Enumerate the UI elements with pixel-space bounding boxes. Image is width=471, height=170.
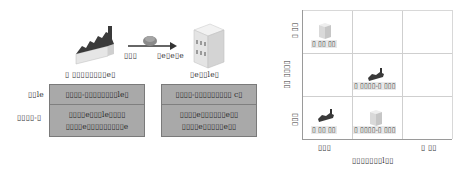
target-box-line-2: ▯▯▯▯e▯▯▯▯▯e▯▯ <box>182 122 236 131</box>
x-axis-title: ▯▯▯▯▯▯▯l▯▯ <box>352 156 394 165</box>
office-building-icon <box>318 22 332 40</box>
matrix-cell-label: ▯ ▯▯ ▯▯ <box>311 40 337 48</box>
grid-line <box>303 53 452 54</box>
matrix-cell-label: ▯ ▯▯ ▯▯ <box>311 126 337 134</box>
x-axis-low-label: ▯▯▯ <box>318 143 331 152</box>
y-axis-low-label: ▯▯▯ <box>290 108 299 132</box>
transfer-arrow-icon <box>126 32 178 52</box>
source-box-line-2: ▯▯▯▯e▯▯▯▯▯▯▯▯▯e <box>66 122 129 131</box>
target-info-box: ▯▯▯▯-▯▯▯▯▯▯▯▯▯ c▯ ▯▯▯▯e▯▯▯▯▯▯e▯▯ ▯▯▯▯e▯▯… <box>161 84 257 137</box>
target-box-body: ▯▯▯▯e▯▯▯▯▯▯e▯▯ ▯▯▯▯e▯▯▯▯▯e▯▯ <box>162 104 256 136</box>
source-info-box: ▯▯▯▯-▯▯▯▯▯▯▯▯le▯ ▯▯▯▯e▯▯▯le▯▯▯▯ ▯▯▯▯e▯▯▯… <box>49 84 145 137</box>
source-box-line-1: ▯▯▯▯e▯▯▯le▯▯▯▯ <box>69 110 126 119</box>
matrix-cell-label: ▯ ▯▯▯▯-▯ ▯▯▯ <box>353 82 396 90</box>
row-label-2: ▯▯▯▯-▯ <box>17 113 41 122</box>
office-building-icon <box>369 109 383 127</box>
office-building-icon <box>192 22 226 70</box>
matrix-grid: ▯ ▯▯ ▯▯ ▯ ▯▯▯▯-▯ ▯▯▯ ▯ ▯▯ ▯▯ ▯ ▯▯▯▯-▯ ▯▯… <box>302 10 452 140</box>
y-axis-high-label: ▯ ▯▯ <box>290 17 299 45</box>
arrow-left-label: ▯▯▯ <box>124 51 137 60</box>
factory-icon <box>367 68 385 82</box>
arrow-right-label: ▯e▯e▯e <box>157 51 184 60</box>
target-label: ▯e▯▯le▯ <box>190 70 219 79</box>
grid-line <box>303 96 452 97</box>
grid-line <box>402 10 403 139</box>
factory-icon <box>72 24 118 66</box>
source-label: ▯ ▯▯▯▯▯▯▯▯e▯ <box>65 70 116 79</box>
source-box-header: ▯▯▯▯-▯▯▯▯▯▯▯▯le▯ <box>50 85 144 105</box>
matrix-cell-label: ▯ ▯▯▯▯-▯ ▯▯▯ <box>353 126 396 134</box>
grid-line <box>303 10 452 11</box>
target-box-line-1: ▯▯▯▯e▯▯▯▯▯▯e▯▯ <box>180 110 238 119</box>
target-box-header: ▯▯▯▯-▯▯▯▯▯▯▯▯▯ c▯ <box>162 85 256 105</box>
y-axis-title: ▯▯ ▯▯▯▯ <box>282 53 291 97</box>
source-box-body: ▯▯▯▯e▯▯▯le▯▯▯▯ ▯▯▯▯e▯▯▯▯▯▯▯▯▯e <box>50 104 144 136</box>
factory-icon <box>317 109 335 123</box>
x-axis-high-label: ▯ ▯▯ <box>421 143 437 152</box>
row-label-1: ▯▯le <box>28 90 44 99</box>
grid-line <box>452 10 453 139</box>
grid-line <box>352 10 353 139</box>
